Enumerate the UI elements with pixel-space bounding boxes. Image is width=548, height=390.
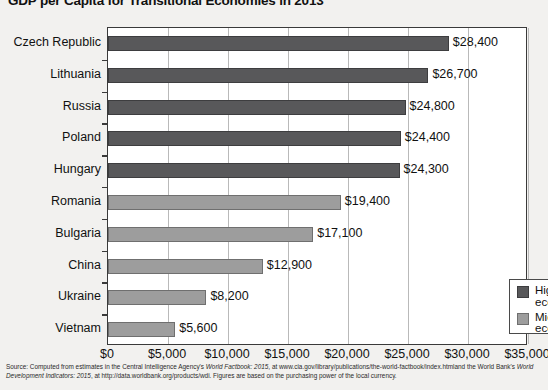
source-line2-a: World Bank's: [478, 363, 517, 370]
bar-vietnam[interactable]: [108, 322, 175, 337]
bar-value-label: $28,400: [453, 35, 498, 49]
source-line1-a: Source: Computed from estimates in the C…: [6, 363, 206, 370]
bar-value-label: $8,200: [210, 289, 248, 303]
category-label-czech-republic: Czech Republic: [0, 35, 101, 49]
bar-row: $12,900: [108, 251, 528, 283]
source-line1-italic: World Factbook: 2015: [206, 363, 269, 370]
bar-hungary[interactable]: [108, 163, 400, 178]
x-tick-label: $20,000: [324, 347, 369, 361]
source-note: Source: Computed from estimates in the C…: [6, 362, 544, 380]
bar-row: $8,200: [108, 282, 528, 314]
bar-row: $24,300: [108, 155, 528, 187]
category-label-romania: Romania: [0, 194, 101, 208]
bar-romania[interactable]: [108, 195, 341, 210]
bar-value-label: $12,900: [267, 258, 312, 272]
bar-ukraine[interactable]: [108, 290, 206, 305]
bar-row: $5,600: [108, 314, 528, 346]
bar-czech-republic[interactable]: [108, 36, 449, 51]
x-tick-label: $25,000: [384, 347, 429, 361]
bar-value-label: $24,300: [404, 162, 449, 176]
bar-russia[interactable]: [108, 100, 406, 115]
x-axis-tick-labels: $0$5,000$10,000$15,000$20,000$25,000$30,…: [0, 347, 548, 363]
legend-label-high-income: High-income economies: [535, 285, 548, 309]
bar-row: $19,400: [108, 187, 528, 219]
bar-value-label: $24,800: [410, 99, 455, 113]
source-line1-b: , at www.cia.gov/library/publications/th…: [268, 363, 475, 370]
x-tick-label: $0: [100, 347, 114, 361]
x-tick-label: $10,000: [204, 347, 249, 361]
legend-swatch-middle-income: [517, 313, 529, 325]
bar-row: $24,400: [108, 123, 528, 155]
bar-row: $28,400: [108, 28, 528, 60]
bar-china[interactable]: [108, 259, 263, 274]
legend-label-middle-income: Middle-income economies: [535, 312, 548, 336]
category-label-hungary: Hungary: [0, 162, 101, 176]
bar-row: $26,700: [108, 60, 528, 92]
category-label-ukraine: Ukraine: [0, 289, 101, 303]
page-title: GDP per Capita for Transitional Economie…: [8, 0, 324, 8]
category-label-vietnam: Vietnam: [0, 321, 101, 335]
bar-bulgaria[interactable]: [108, 227, 313, 242]
source-line2-b: , at http://data.worldbank.org/products/…: [91, 372, 397, 379]
bar-value-label: $24,400: [405, 130, 450, 144]
bar-value-label: $19,400: [345, 194, 390, 208]
x-tick-label: $5,000: [148, 347, 186, 361]
category-label-russia: Russia: [0, 99, 101, 113]
category-label-lithuania: Lithuania: [0, 67, 101, 81]
bar-value-label: $17,100: [317, 226, 362, 240]
bar-value-label: $26,700: [432, 67, 477, 81]
category-label-bulgaria: Bulgaria: [0, 226, 101, 240]
bar-row: $17,100: [108, 219, 528, 251]
bar-row: $24,800: [108, 92, 528, 124]
plot-area: $28,400$26,700$24,800$24,400$24,300$19,4…: [107, 27, 527, 345]
chart-page: GDP per Capita for Transitional Economie…: [0, 0, 548, 390]
bar-value-label: $5,600: [179, 321, 217, 335]
legend: High-income economies Middle-income econ…: [509, 279, 548, 334]
x-tick-label: $15,000: [264, 347, 309, 361]
bar-poland[interactable]: [108, 131, 401, 146]
category-label-china: China: [0, 258, 101, 272]
category-label-poland: Poland: [0, 130, 101, 144]
legend-item-high-income: High-income economies: [517, 285, 548, 309]
legend-item-middle-income: Middle-income economies: [517, 312, 548, 336]
legend-swatch-high-income: [517, 286, 529, 298]
x-tick-label: $35,000: [504, 347, 548, 361]
x-tick-label: $30,000: [444, 347, 489, 361]
bar-lithuania[interactable]: [108, 68, 428, 83]
